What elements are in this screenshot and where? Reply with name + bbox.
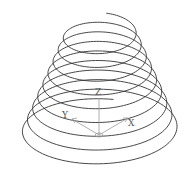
y-axis-label: Y [61,110,69,120]
coordinate-axes: Z X Y [61,87,135,137]
x-axis [99,118,128,135]
y-axis [72,119,99,135]
helix-diagram: Z X Y [0,0,194,190]
z-axis-label: Z [95,87,101,97]
x-axis-label: X [128,118,135,128]
